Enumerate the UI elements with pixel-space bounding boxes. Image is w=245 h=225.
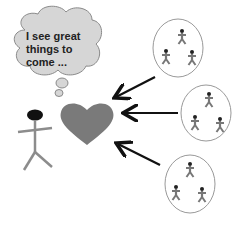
bubble-line-3: come ...	[26, 56, 96, 69]
bubble-line-2: things to	[26, 43, 96, 56]
heart-icon	[61, 103, 114, 145]
stick-figure-person	[18, 110, 52, 171]
group-circle-1	[153, 19, 203, 77]
bubble-line-1: I see great	[26, 30, 96, 43]
thought-bubble-text: I see great things to come ...	[26, 30, 96, 69]
arrows	[116, 77, 178, 165]
group-circle-3	[165, 155, 215, 213]
group-circle-2	[181, 85, 231, 141]
